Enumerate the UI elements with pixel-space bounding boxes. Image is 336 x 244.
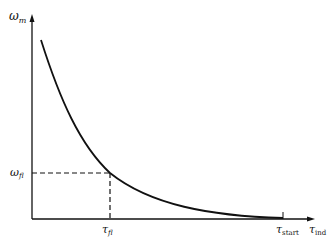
x-axis-arrow-icon <box>307 217 315 222</box>
tau-fl-label: τfl <box>102 223 113 237</box>
omega-fl-label: ωfl <box>10 166 24 180</box>
torque-speed-diagram: ωm ωfl τfl τstart τind <box>0 0 336 244</box>
y-axis-label: ωm <box>9 9 27 25</box>
x-axis-label: τind <box>309 223 327 237</box>
torque-speed-curve <box>41 40 283 218</box>
tau-start-label: τstart <box>276 223 299 237</box>
y-axis-arrow-icon <box>30 14 35 22</box>
